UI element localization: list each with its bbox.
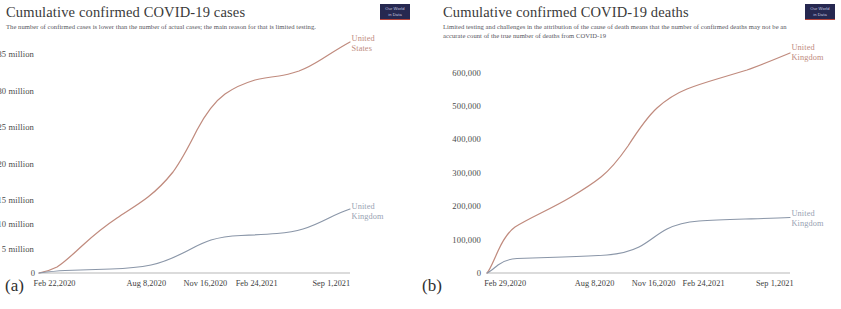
our-world-in-data-logo-a: Our World in Data [380, 4, 410, 20]
y-tick-label: 25 million [0, 122, 39, 132]
figure-sheet: Cumulative confirmed COVID-19 cases The … [0, 0, 841, 309]
x-tick-label: Nov 16,2020 [632, 279, 676, 288]
x-tick-label: Sep 1,2021 [756, 279, 794, 288]
y-tick-label: 5 million [2, 244, 39, 254]
series-label-line-2: Kingdom [792, 53, 824, 63]
series-label-line-1: United [352, 34, 375, 44]
plot-area-a: 35 million 30 million 25 million 20 mill… [39, 42, 350, 273]
y-tick-label: 30 million [0, 86, 39, 96]
panel-caption-b: (b) [422, 276, 442, 296]
series-label-lower: United Kingdom [792, 209, 824, 228]
series-label-line-2: Kingdom [352, 212, 384, 222]
chart-panel-b: Cumulative confirmed COVID-19 deaths Lim… [421, 0, 841, 309]
x-tick-label: Feb 29,2020 [484, 279, 526, 288]
chart-subtitle-b: Limited testing and challenges in the at… [443, 23, 801, 40]
panel-caption-a: (a) [5, 276, 24, 296]
series-line-united-kingdom [39, 209, 350, 273]
y-axis-zero-label: 0 [477, 268, 487, 278]
chart-header-a: Cumulative confirmed COVID-19 cases The … [0, 0, 426, 32]
x-tick-label: Aug 8,2020 [126, 279, 166, 288]
series-label-line-1: United [792, 209, 824, 219]
logo-line-2: in Data [813, 12, 827, 17]
y-tick-label: 10 million [0, 219, 39, 229]
chart-subtitle-a: The number of confirmed cases is lower t… [6, 23, 358, 32]
y-tick-label: 35 million [0, 49, 39, 59]
chart-title-b: Cumulative confirmed COVID-19 deaths [443, 5, 841, 20]
chart-canvas-b [487, 46, 790, 273]
series-label-line-2: Kingdom [792, 219, 824, 229]
y-tick-label: 100,000 [452, 235, 487, 245]
series-label-line-1: United [792, 43, 824, 53]
x-tick-label: Feb 24,2021 [236, 279, 278, 288]
x-tick-label: Feb 24,2021 [683, 279, 725, 288]
y-tick-label: 400,000 [452, 134, 487, 144]
chart-panel-a: Cumulative confirmed COVID-19 cases The … [0, 0, 420, 309]
series-label-united-kingdom: United Kingdom [352, 202, 384, 221]
our-world-in-data-logo-b: Our World in Data [805, 4, 835, 20]
series-label-united-states: United States [352, 34, 375, 53]
y-tick-label: 200,000 [452, 201, 487, 211]
series-label-upper: United Kingdom [792, 43, 824, 62]
series-line-united-states [39, 42, 350, 273]
y-tick-label: 15 million [0, 195, 39, 205]
chart-canvas-a [39, 42, 350, 273]
y-tick-label: 600,000 [452, 68, 487, 78]
x-tick-label: Feb 22,2020 [34, 279, 76, 288]
x-tick-label: Sep 1,2021 [312, 279, 350, 288]
x-tick-label: Nov 16,2020 [183, 279, 227, 288]
plot-area-b: 600,000 500,000 400,000 300,000 200,000 … [487, 46, 790, 273]
series-line-upper [487, 53, 790, 273]
series-label-line-2: States [352, 44, 375, 54]
chart-title-a: Cumulative confirmed COVID-19 cases [6, 5, 426, 20]
series-line-lower [487, 218, 790, 274]
x-tick-label: Aug 8,2020 [575, 279, 615, 288]
logo-line-2: in Data [388, 12, 402, 17]
series-label-line-1: United [352, 202, 384, 212]
y-axis-zero-label: 0 [31, 268, 39, 278]
y-tick-label: 300,000 [452, 168, 487, 178]
y-tick-label: 500,000 [452, 101, 487, 111]
y-tick-label: 20 million [0, 159, 39, 169]
chart-header-b: Cumulative confirmed COVID-19 deaths Lim… [421, 0, 841, 40]
